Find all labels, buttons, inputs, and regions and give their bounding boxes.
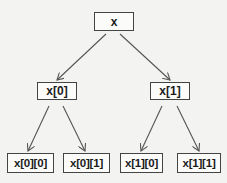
edge-x1-to-x10 (141, 106, 162, 151)
node-x10: x[1][0] (120, 153, 163, 173)
edge-x0-to-x00 (28, 106, 49, 151)
node-x11: x[1][1] (177, 153, 221, 173)
node-x: x (94, 12, 134, 31)
edge-x-to-x0 (57, 34, 106, 80)
edge-x-to-x1 (120, 34, 170, 80)
node-x1: x[1] (150, 82, 190, 100)
edge-x0-to-x01 (63, 106, 85, 151)
tree-diagram: x x[0] x[1] x[0][0] x[0][1] x[1][0] x[1]… (0, 0, 227, 183)
node-x01: x[0][1] (63, 153, 110, 173)
node-x00: x[0][0] (7, 153, 54, 173)
node-x0: x[0] (37, 82, 77, 100)
edge-x1-to-x11 (177, 106, 199, 151)
